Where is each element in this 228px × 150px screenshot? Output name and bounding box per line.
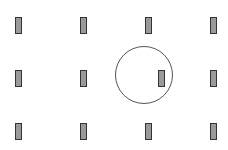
grid-bar xyxy=(210,70,217,87)
grid-bar xyxy=(210,123,217,140)
grid-bar xyxy=(145,123,152,140)
grid-bar xyxy=(145,17,152,34)
grid-bar xyxy=(15,17,22,34)
grid-bar xyxy=(80,17,87,34)
grid-bar xyxy=(80,123,87,140)
grid-bar xyxy=(210,17,217,34)
grid-bar xyxy=(15,70,22,87)
highlight-circle xyxy=(115,46,173,104)
bar-grid-diagram xyxy=(0,0,228,150)
grid-bar xyxy=(80,70,87,87)
grid-bar xyxy=(15,123,22,140)
